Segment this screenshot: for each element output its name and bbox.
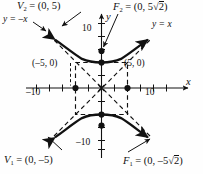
- tick-label-y-minus-10: –10: [76, 138, 90, 148]
- tick-label-x-minus-10: –10: [26, 88, 40, 98]
- label-focus-top-sub: 2: [119, 6, 122, 13]
- label-vertex-top-eq: = (0, 5): [29, 0, 60, 11]
- x-axis: [26, 85, 188, 92]
- tick-label-x-10: 10: [145, 88, 155, 98]
- label-focus-top: F2 = (0, 5√2): [113, 1, 168, 13]
- label-focus-top-eq: = (0, 5: [125, 1, 153, 12]
- label-asymptote-negative: y = –x: [3, 15, 27, 25]
- label-asymptote-positive: y = x: [152, 20, 172, 30]
- label-vertex-bottom-sub: 1: [10, 159, 13, 166]
- label-vertex-top-sub: 2: [23, 5, 26, 12]
- copoint-left: [72, 85, 78, 91]
- leader-vertex-bottom: [48, 137, 62, 150]
- vertex-bottom-point: [98, 111, 104, 117]
- leader-focus-bottom: [128, 139, 150, 152]
- vertex-top-point: [98, 59, 104, 65]
- label-focus-bottom: F1 = (0, –5√2): [123, 155, 183, 167]
- focus-bottom-point: [98, 122, 104, 128]
- hyperbola-figure: V2 = (0, 5) F2 = (0, 5√2) V1 = (0, –5) F…: [0, 0, 203, 174]
- label-focus-top-close: ): [164, 1, 168, 12]
- label-y-axis: y: [106, 12, 111, 23]
- label-vertex-bottom-eq: = (0, –5): [16, 154, 53, 165]
- copoint-right: [124, 85, 130, 91]
- label-focus-bottom-sub: 1: [129, 160, 132, 167]
- label-copoint-right: (5, 0): [124, 59, 145, 69]
- label-vertex-bottom: V1 = (0, –5): [4, 155, 53, 166]
- label-focus-bottom-close: ): [179, 155, 183, 166]
- label-x-axis: x: [186, 77, 191, 88]
- label-vertex-top: V2 = (0, 5): [17, 1, 61, 12]
- label-copoint-left: (–5, 0): [32, 59, 57, 69]
- focus-top-point: [98, 48, 104, 54]
- tick-label-y-10: 10: [82, 24, 92, 34]
- label-focus-bottom-eq: = (0, –5: [135, 155, 168, 166]
- leader-vertex-top: [62, 12, 81, 26]
- leader-asymptote-neg: [33, 22, 46, 31]
